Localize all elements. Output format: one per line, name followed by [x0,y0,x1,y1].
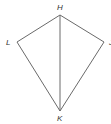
vertex-label-k: K [57,114,63,123]
segment-hj [60,15,104,42]
segment-lk [17,42,60,111]
kite-diagram: H L J K [0,0,111,124]
vertex-label-j: J [108,38,111,47]
segment-jk [60,42,104,111]
vertex-label-h: H [57,3,63,12]
segment-hl [17,15,60,42]
vertex-label-l: L [6,38,10,47]
